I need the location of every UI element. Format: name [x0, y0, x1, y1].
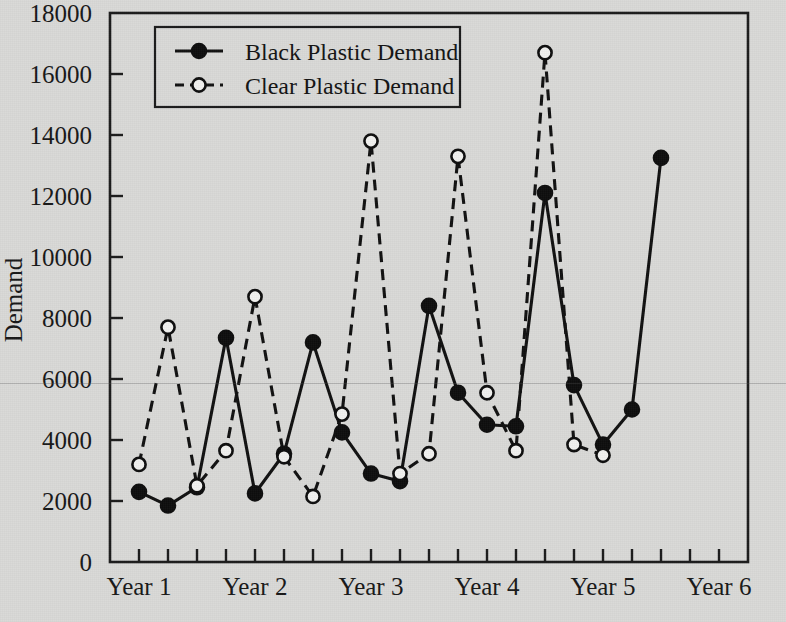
- data-point-black: [364, 466, 378, 480]
- y-axis-tick-label: 18000: [30, 0, 93, 27]
- y-axis-tick-label: 14000: [30, 122, 93, 149]
- series-line-black: [139, 158, 661, 506]
- data-point-clear: [393, 467, 406, 480]
- data-point-clear: [161, 321, 174, 334]
- y-axis-tick-label: 0: [80, 549, 93, 576]
- x-axis-category-label: Year 1: [107, 573, 172, 600]
- chart-legend: Black Plastic DemandClear Plastic Demand: [155, 27, 460, 107]
- data-point-clear: [596, 449, 609, 462]
- data-point-black: [422, 299, 436, 313]
- y-axis-tick-label: 8000: [42, 305, 92, 332]
- data-point-black: [480, 418, 494, 432]
- x-axis-tick-group: [139, 549, 719, 562]
- data-point-black: [335, 425, 349, 439]
- data-point-clear: [480, 386, 493, 399]
- y-axis-tick-label: 4000: [42, 427, 92, 454]
- data-point-clear: [190, 479, 203, 492]
- legend-marker-open: [192, 78, 205, 91]
- data-point-black: [625, 402, 639, 416]
- data-point-black: [567, 378, 581, 392]
- data-point-black: [509, 419, 523, 433]
- data-point-clear: [567, 438, 580, 451]
- data-point-clear: [509, 444, 522, 457]
- data-point-clear: [306, 490, 319, 503]
- data-point-black: [306, 335, 320, 349]
- legend-label: Clear Plastic Demand: [245, 73, 454, 99]
- data-point-black: [538, 186, 552, 200]
- x-axis-label-group: Year 1Year 2Year 3Year 4Year 5Year 6: [107, 573, 752, 600]
- data-point-clear: [219, 444, 232, 457]
- legend-label: Black Plastic Demand: [245, 39, 458, 65]
- x-axis-category-label: Year 3: [339, 573, 404, 600]
- data-point-black: [132, 485, 146, 499]
- data-point-clear: [538, 46, 551, 59]
- y-axis-label-group: 0200040006000800010000120001400016000180…: [30, 0, 93, 576]
- data-point-clear: [248, 290, 261, 303]
- demand-line-chart: 0200040006000800010000120001400016000180…: [0, 0, 786, 622]
- data-point-black: [248, 486, 262, 500]
- legend-marker-filled: [192, 44, 206, 58]
- x-axis-category-label: Year 2: [223, 573, 288, 600]
- data-point-clear: [422, 447, 435, 460]
- y-axis-title: Demand: [0, 257, 27, 342]
- data-point-black: [161, 498, 175, 512]
- data-point-clear: [364, 135, 377, 148]
- data-point-black: [451, 386, 465, 400]
- data-point-clear: [277, 450, 290, 463]
- data-point-clear: [132, 458, 145, 471]
- y-axis-tick-label: 10000: [30, 244, 93, 271]
- series-group: [132, 46, 668, 513]
- x-axis-category-label: Year 4: [455, 573, 520, 600]
- y-axis-tick-label: 2000: [42, 488, 92, 515]
- x-axis-category-label: Year 6: [687, 573, 752, 600]
- x-axis-category-label: Year 5: [571, 573, 636, 600]
- data-point-clear: [451, 150, 464, 163]
- data-point-clear: [335, 407, 348, 420]
- y-axis-tick-label: 16000: [30, 61, 93, 88]
- y-axis-tick-label: 12000: [30, 183, 93, 210]
- data-point-black: [654, 151, 668, 165]
- y-axis-tick-label: 6000: [42, 366, 92, 393]
- data-point-black: [219, 331, 233, 345]
- chart-container: 0200040006000800010000120001400016000180…: [0, 0, 786, 622]
- y-axis-tick-group: [110, 74, 123, 501]
